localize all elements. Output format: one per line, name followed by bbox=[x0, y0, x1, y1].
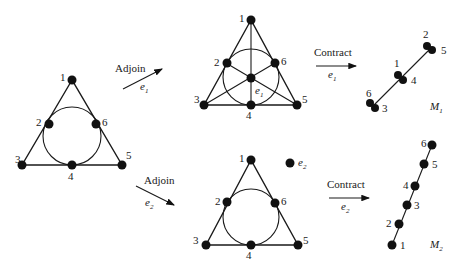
label-4: 4 bbox=[246, 249, 252, 261]
label-2: 2 bbox=[423, 28, 429, 40]
adjoin-label: Adjoin bbox=[115, 62, 146, 74]
label-2: 2 bbox=[36, 116, 42, 128]
adjoin-e2-arrow: Adjoin e2 bbox=[136, 174, 175, 211]
point-1 bbox=[247, 156, 256, 165]
label-6: 6 bbox=[421, 137, 427, 149]
label-2: 2 bbox=[215, 195, 221, 207]
label-5: 5 bbox=[126, 149, 132, 161]
point-5 bbox=[420, 160, 429, 169]
label-6: 6 bbox=[281, 195, 287, 207]
point-4 bbox=[68, 161, 77, 170]
point-1 bbox=[68, 76, 77, 85]
label-6: 6 bbox=[281, 55, 287, 67]
point-5 bbox=[294, 241, 303, 250]
label-1: 1 bbox=[60, 71, 66, 83]
original-matroid: 1 2 3 4 5 6 bbox=[15, 71, 132, 182]
point-6 bbox=[428, 141, 437, 150]
label-3: 3 bbox=[382, 102, 388, 114]
point-1 bbox=[388, 241, 397, 250]
point-6 bbox=[271, 199, 280, 208]
label-1: 1 bbox=[394, 57, 400, 69]
label-3: 3 bbox=[15, 153, 21, 165]
label-e2: e2 bbox=[298, 156, 307, 171]
element-label: e1 bbox=[140, 80, 148, 95]
point-3 bbox=[200, 101, 209, 110]
label-2: 2 bbox=[214, 56, 220, 68]
point-2 bbox=[223, 198, 232, 207]
element-label: e2 bbox=[145, 196, 154, 211]
label-6: 6 bbox=[102, 116, 108, 128]
label-3: 3 bbox=[414, 199, 420, 211]
point-2 bbox=[223, 59, 232, 68]
label-3: 3 bbox=[194, 93, 200, 105]
contract-e1-arrow: Contract e1 bbox=[314, 46, 356, 83]
contract-label: Contract bbox=[327, 178, 365, 190]
adjoin-e1-arrow: Adjoin e1 bbox=[115, 62, 162, 95]
point-5 bbox=[428, 46, 436, 54]
adjoin-label: Adjoin bbox=[144, 174, 175, 186]
point-e1 bbox=[247, 74, 256, 83]
element-label: e1 bbox=[328, 68, 336, 83]
label-5: 5 bbox=[432, 158, 438, 170]
point-2 bbox=[395, 220, 404, 229]
point-5 bbox=[118, 161, 127, 170]
m1-name: M1 bbox=[429, 100, 443, 115]
fano-plane: 1 2 3 4 5 6 e1 bbox=[194, 12, 308, 121]
label-4: 4 bbox=[411, 74, 417, 86]
label-5: 5 bbox=[302, 93, 308, 105]
label-3: 3 bbox=[193, 234, 199, 246]
matroid-diagram: 1 2 3 4 5 6 Adjoin e1 1 2 3 4 5 6 e1 Con… bbox=[0, 0, 461, 271]
median-3-6 bbox=[204, 63, 275, 105]
matroid-m2: 1 2 3 4 5 6 M2 bbox=[386, 137, 443, 253]
label-5: 5 bbox=[441, 44, 447, 56]
circle-line bbox=[43, 107, 101, 165]
label-4: 4 bbox=[403, 179, 409, 191]
label-1: 1 bbox=[239, 152, 245, 164]
label-5: 5 bbox=[303, 234, 309, 246]
point-2 bbox=[45, 120, 54, 129]
label-6: 6 bbox=[366, 87, 372, 99]
arrow-line bbox=[136, 186, 174, 205]
point-6 bbox=[92, 120, 101, 129]
contract-e2-arrow: Contract e2 bbox=[327, 178, 369, 215]
point-3 bbox=[403, 201, 412, 210]
label-2: 2 bbox=[386, 217, 392, 229]
label-1: 1 bbox=[239, 12, 245, 24]
point-4 bbox=[411, 182, 420, 191]
contract-label: Contract bbox=[314, 46, 352, 58]
element-label: e2 bbox=[341, 200, 350, 215]
point-5 bbox=[293, 101, 302, 110]
point-3 bbox=[202, 241, 211, 250]
circle-line bbox=[223, 189, 279, 245]
label-e1: e1 bbox=[255, 84, 263, 99]
label-4: 4 bbox=[246, 109, 252, 121]
extended-matroid: 1 2 3 4 5 6 e2 bbox=[193, 152, 309, 261]
label-1: 1 bbox=[400, 239, 406, 251]
m2-name: M2 bbox=[429, 238, 443, 253]
point-6 bbox=[271, 59, 280, 68]
matroid-m1: 2 5 1 4 6 3 M1 bbox=[366, 28, 447, 115]
label-4: 4 bbox=[68, 170, 74, 182]
point-4 bbox=[399, 76, 407, 84]
point-1 bbox=[247, 16, 256, 25]
point-e2 bbox=[286, 159, 295, 168]
point-3 bbox=[371, 104, 379, 112]
